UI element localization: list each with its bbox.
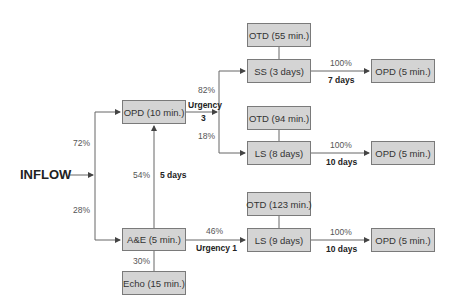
label-inflow-ae: 28% [73,205,90,215]
label-ae-opd-time: 5 days [160,170,186,180]
label-ls8-opd-time: 10 days [326,157,357,167]
node-ae: A&E (5 min.) [122,228,186,251]
node-otd-123: OTD (123 min.) [247,192,311,216]
node-ss: SS (3 days) [247,59,311,83]
node-otd-94: OTD (94 min.) [247,106,311,130]
node-ls-9: LS (9 days) [247,228,311,252]
label-ls8-opd-pct: 100% [330,140,352,150]
label-urgency-level: 3 [201,113,206,123]
node-opd-5-b: OPD (5 min.) [371,141,435,165]
node-opd-main: OPD (10 min.) [122,100,186,124]
node-otd-55: OTD (55 min.) [247,23,311,47]
label-ls9-opd-pct: 100% [330,227,352,237]
label-ss-opd-pct: 100% [330,58,352,68]
inflow-label: INFLOW [20,167,71,182]
node-echo: Echo (15 min.) [122,271,186,295]
label-opd-ss: 82% [198,85,215,95]
label-ae-ls9-urgency: Urgency 1 [196,243,237,253]
label-ae-echo: 30% [133,256,150,266]
label-ae-ls9-pct: 46% [206,226,223,236]
node-ls-8: LS (8 days) [247,141,311,165]
label-ae-opd-pct: 54% [133,170,150,180]
label-inflow-opd: 72% [73,138,90,148]
label-ss-opd-time: 7 days [328,75,354,85]
label-urgency: Urgency [188,100,222,110]
node-opd-5-a: OPD (5 min.) [371,59,435,83]
label-opd-ls8: 18% [198,131,215,141]
label-ls9-opd-time: 10 days [326,244,357,254]
node-opd-5-c: OPD (5 min.) [371,228,435,252]
